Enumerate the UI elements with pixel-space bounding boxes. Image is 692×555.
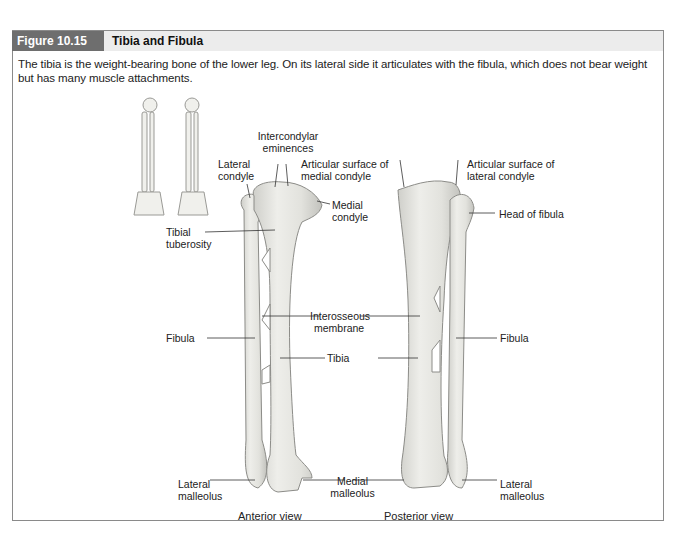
label-fibula-anterior: Fibula <box>166 332 195 344</box>
label-lateral-condyle: Lateral condyle <box>218 158 254 182</box>
label-medial-malleolus: Medial malleolus <box>330 475 375 499</box>
label-articular-surface-medial-condyle: Articular surface of medial condyle <box>301 158 389 182</box>
posterior-view-caption: Posterior view <box>384 510 453 522</box>
label-head-of-fibula: Head of fibula <box>499 208 564 220</box>
label-lateral-malleolus-anterior: Lateral malleolus <box>178 478 222 502</box>
thumbnail-legs-icon <box>134 98 208 215</box>
label-medial-condyle: Medial condyle <box>332 199 368 223</box>
tibia-fibula-illustration <box>0 0 692 555</box>
label-tibia: Tibia <box>327 352 349 364</box>
label-intercondylar-eminences: Intercondylar eminences <box>248 130 328 154</box>
label-lateral-malleolus-posterior: Lateral malleolus <box>500 478 544 502</box>
label-fibula-posterior: Fibula <box>500 332 529 344</box>
anterior-bones <box>241 182 322 492</box>
anterior-view-caption: Anterior view <box>238 510 302 522</box>
posterior-bones <box>398 181 474 488</box>
label-tibial-tuberosity: Tibial tuberosity <box>166 226 212 250</box>
label-articular-surface-lateral-condyle: Articular surface of lateral condyle <box>467 158 555 182</box>
label-interosseous-membrane: Interosseous membrane <box>320 310 362 334</box>
